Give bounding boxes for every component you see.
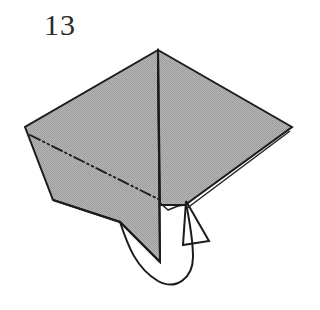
origami-figure: 13	[0, 0, 320, 310]
origami-illustration	[0, 0, 320, 310]
left-panel-shape	[25, 50, 160, 262]
paper-right-panel	[158, 50, 292, 205]
right-panel-shape	[158, 50, 292, 205]
paper-left-panel	[25, 50, 160, 262]
